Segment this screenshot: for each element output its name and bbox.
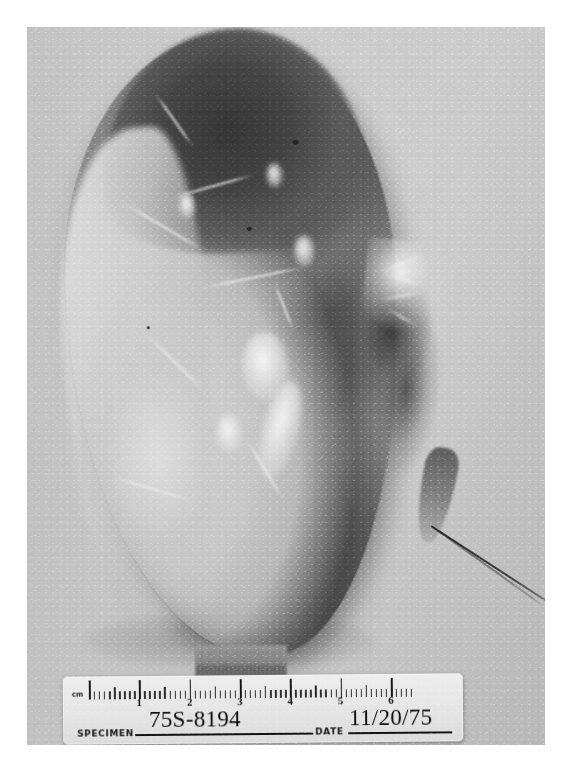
ruler-tick <box>315 686 316 698</box>
ruler-tick <box>285 690 286 698</box>
ruler-tick <box>210 690 211 698</box>
ruler-tick <box>104 691 105 699</box>
date-field-label: DATE <box>315 726 344 736</box>
ruler-tick <box>275 690 276 698</box>
ruler-tick <box>169 691 170 699</box>
ruler-tick <box>179 691 180 699</box>
ruler-tick <box>225 690 226 698</box>
ruler-tick <box>114 687 115 699</box>
ruler-tick <box>124 691 125 699</box>
kidney-specimen <box>27 27 545 745</box>
ruler-tick <box>119 691 120 699</box>
ruler-tick <box>250 690 251 698</box>
specimen-field-label: SPECIMEN <box>77 728 134 738</box>
ruler-tick <box>149 691 150 699</box>
ruler-numeral: 5 <box>338 694 344 706</box>
ruler-tick <box>174 691 175 699</box>
date-value: 11/20/75 <box>349 705 433 732</box>
ruler-tick <box>381 689 382 697</box>
ruler-tick <box>230 690 231 698</box>
ruler-tick <box>386 689 387 697</box>
ruler-tick <box>245 690 246 698</box>
ruler-tick <box>371 689 372 697</box>
pathology-photograph: cm 123456 SPECIMEN 75S-8194 DATE 11/20/7… <box>27 27 545 745</box>
ruler-tick <box>220 690 221 698</box>
ruler-tick <box>109 691 110 699</box>
screenshot-root: cm 123456 SPECIMEN 75S-8194 DATE 11/20/7… <box>0 0 571 775</box>
ruler-tick <box>154 691 155 699</box>
ruler-tick <box>235 690 236 698</box>
dark-punctum <box>292 140 298 145</box>
ruler-tick <box>330 689 331 697</box>
ruler-tick <box>215 686 216 698</box>
hilar-vessel-strand <box>375 253 426 275</box>
ruler-tick <box>361 689 362 697</box>
ruler-tick <box>350 689 351 697</box>
ruler-tick <box>270 690 271 698</box>
ruler-tick <box>406 689 407 697</box>
ruler-tick <box>200 691 201 699</box>
ruler-numeral: 4 <box>287 695 293 707</box>
hilar-vessel-strand <box>375 291 426 302</box>
hilar-vessel-strand <box>382 272 427 288</box>
ruler-tick <box>355 689 356 697</box>
fibrous-strand <box>198 265 308 290</box>
ruler-unit-mark: cm <box>72 691 83 699</box>
dark-punctum <box>247 227 252 231</box>
ruler-tick <box>335 689 336 697</box>
ruler-tick <box>265 686 266 698</box>
ruler-tick <box>99 691 100 699</box>
ruler-tick <box>345 689 346 697</box>
ruler-tick <box>144 691 145 699</box>
ruler-tick <box>280 690 281 698</box>
ruler-tick <box>411 689 412 697</box>
date-field-rule <box>348 731 452 734</box>
ureter-distal-segment-secondary <box>437 529 545 607</box>
hilar-vessel-strand <box>385 306 421 328</box>
ruler-tick <box>320 689 321 697</box>
ruler-tick <box>184 691 185 699</box>
ruler-tick <box>376 689 377 697</box>
ruler-tick <box>295 690 296 698</box>
specimen-number-value: 75S-8194 <box>149 706 241 733</box>
ruler-tick <box>366 685 367 697</box>
ruler-tick <box>396 689 397 697</box>
ruler-tick <box>194 691 195 699</box>
ruler-tick <box>205 690 206 698</box>
fibrous-strand <box>274 281 295 331</box>
ruler-tick <box>255 690 256 698</box>
ruler-tick <box>129 691 130 699</box>
cortical-surface-region <box>72 283 270 629</box>
ruler-tick <box>94 691 95 699</box>
ruler-tick <box>305 690 306 698</box>
ruler-tick <box>89 681 91 700</box>
ruler-numeral: 1 <box>136 696 142 708</box>
specimen-support-block <box>195 645 287 677</box>
specimen-label-card: cm 123456 SPECIMEN 75S-8194 DATE 11/20/7… <box>63 673 464 744</box>
ruler-tick <box>401 689 402 697</box>
renal-hilum-region <box>345 236 486 477</box>
ruler-tick <box>325 689 326 697</box>
ruler-tick <box>134 691 135 699</box>
ruler-tick <box>260 690 261 698</box>
specimen-field-rule <box>135 733 313 736</box>
ruler-tick <box>310 690 311 698</box>
ruler-tick <box>159 691 160 699</box>
ruler-tick <box>164 687 165 699</box>
ruler-tick <box>300 690 301 698</box>
